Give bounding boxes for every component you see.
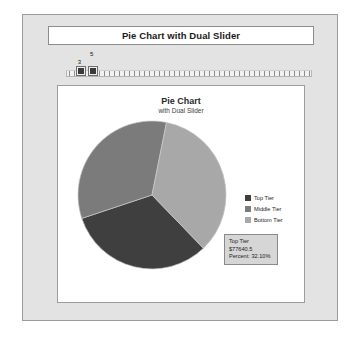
legend-item[interactable]: Bottom Tier (245, 216, 303, 224)
legend-swatch-icon (245, 217, 251, 223)
chart-title: Pie Chart (58, 96, 304, 106)
slider-tick-marks (67, 71, 311, 76)
tooltip-percent: Percent: 32.10% (229, 253, 273, 261)
dual-slider[interactable]: 3 5 (48, 51, 314, 79)
chart-tooltip: Top Tier $77640.5 Percent: 32.10% (224, 234, 278, 265)
chart-legend: Top TierMiddle TierBottom Tier (245, 194, 303, 227)
pie-chart (76, 119, 228, 271)
legend-item-label: Middle Tier (254, 205, 281, 213)
pie-chart-svg (76, 119, 228, 271)
slider-high-value-label: 5 (90, 51, 93, 58)
legend-item-label: Top Tier (254, 194, 274, 202)
tooltip-value: $77640.5 (229, 246, 273, 254)
chart-subtitle: with Dual Slider (58, 107, 304, 114)
page-title: Pie Chart with Dual Slider (122, 30, 240, 41)
legend-item[interactable]: Top Tier (245, 194, 303, 202)
slider-low-value-label: 3 (78, 59, 81, 66)
legend-swatch-icon (245, 206, 251, 212)
window-header-bar: Pie Chart with Dual Slider (48, 26, 314, 45)
slider-track[interactable] (66, 70, 312, 77)
slider-handle-low[interactable] (77, 67, 85, 75)
slider-handle-high[interactable] (89, 67, 97, 75)
chart-panel: Pie Chart with Dual Slider Top TierMiddl… (57, 85, 305, 303)
legend-item[interactable]: Middle Tier (245, 205, 303, 213)
tooltip-series-name: Top Tier (229, 238, 273, 246)
legend-swatch-icon (245, 195, 251, 201)
legend-item-label: Bottom Tier (254, 216, 283, 224)
application-window: Pie Chart with Dual Slider 3 5 Pie Chart… (22, 14, 338, 321)
